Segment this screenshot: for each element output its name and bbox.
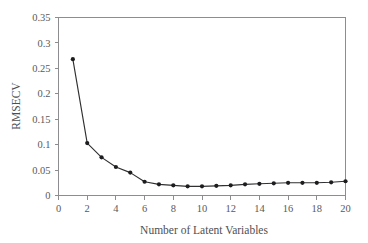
data-point [157, 182, 161, 186]
data-point [99, 155, 103, 159]
data-point [229, 183, 233, 187]
x-tick-label: 12 [225, 203, 236, 214]
y-tick-label: 0.05 [32, 165, 50, 176]
data-point [243, 182, 247, 186]
x-tick-label: 16 [283, 203, 294, 214]
x-tick-label: 4 [113, 203, 119, 214]
y-tick-label: 0.25 [32, 63, 50, 74]
data-point [85, 141, 89, 145]
data-point [214, 184, 218, 188]
rmsecv-line-chart: 02468101214161820 00.050.10.150.20.250.3… [0, 0, 368, 243]
data-point [257, 182, 261, 186]
data-point [128, 171, 132, 175]
data-point [114, 165, 118, 169]
x-tick-label: 14 [254, 203, 265, 214]
data-point [71, 57, 75, 61]
data-point [186, 184, 190, 188]
y-axis-title: RMSECV [10, 82, 22, 130]
y-tick-label: 0.3 [37, 38, 50, 49]
data-point [171, 183, 175, 187]
y-tick-label: 0.35 [32, 12, 50, 23]
x-tick-label: 10 [197, 203, 208, 214]
data-point [272, 181, 276, 185]
y-tick-label: 0.15 [32, 114, 50, 125]
data-point [286, 181, 290, 185]
x-tick-label: 2 [85, 203, 90, 214]
x-tick-label: 6 [142, 203, 147, 214]
x-tick-label: 18 [312, 203, 323, 214]
y-tick-label: 0.2 [37, 88, 50, 99]
data-point [343, 179, 347, 183]
x-tick-label: 20 [340, 203, 351, 214]
chart-figure: 02468101214161820 00.050.10.150.20.250.3… [0, 0, 368, 243]
data-point [200, 184, 204, 188]
x-tick-label: 8 [171, 203, 176, 214]
y-tick-label: 0.1 [37, 139, 50, 150]
x-axis-title: Number of Latent Variables [140, 224, 268, 236]
data-point [329, 180, 333, 184]
data-point [315, 181, 319, 185]
x-tick-label: 0 [56, 203, 61, 214]
data-point [143, 180, 147, 184]
data-point [300, 181, 304, 185]
y-tick-label: 0 [45, 190, 50, 201]
